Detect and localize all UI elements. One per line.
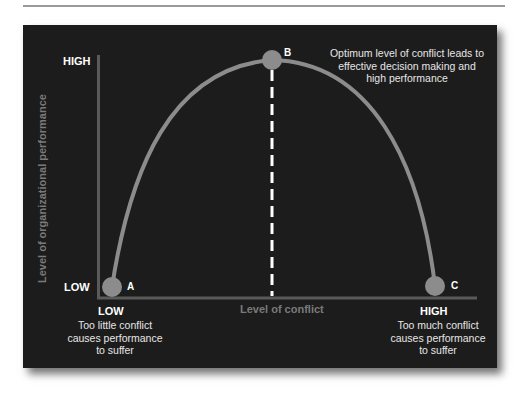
optimum-annotation: Optimum level of conflict leads to effec… [318,47,496,85]
too-much-annotation: Too much conflict causes performance to … [378,319,498,357]
too-little-line-2: causes performance [55,332,175,345]
y-low-label: LOW [64,281,90,293]
too-much-line-3: to suffer [378,344,498,357]
too-little-line-3: to suffer [55,344,175,357]
too-much-line-2: causes performance [378,332,498,345]
optimum-line-3: high performance [318,72,496,85]
optimum-line-2: effective decision making and [318,60,496,73]
too-little-annotation: Too little conflict causes performance t… [55,319,175,357]
optimum-line-1: Optimum level of conflict leads to [318,47,496,60]
y-high-label: HIGH [63,55,91,67]
point-a-marker [102,277,122,297]
y-axis-title: Level of organizational performance [36,94,48,283]
x-axis-title: Level of conflict [240,303,324,315]
point-b-label: B [284,47,291,58]
too-much-line-1: Too much conflict [378,319,498,332]
point-b-marker [262,50,282,70]
point-a-label: A [127,281,134,292]
x-high-label: HIGH [420,305,448,317]
too-little-line-1: Too little conflict [55,319,175,332]
point-c-marker [425,276,445,296]
x-low-label: LOW [98,305,124,317]
point-c-label: C [451,280,458,291]
